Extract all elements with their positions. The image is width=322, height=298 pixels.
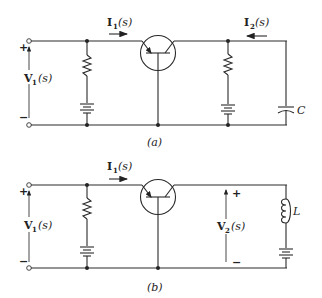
svg-text:(s): (s) xyxy=(38,219,52,232)
svg-text:(s): (s) xyxy=(38,72,52,85)
v1-plus-sign: + xyxy=(19,185,28,198)
svg-text:(s): (s) xyxy=(118,16,132,29)
svg-text:I: I xyxy=(107,16,112,29)
svg-text:I: I xyxy=(244,16,249,29)
transistor-icon xyxy=(141,180,176,269)
v2-label: V 2 (s) xyxy=(216,220,245,235)
v1-minus-sign: − xyxy=(19,111,28,124)
caption-a: (a) xyxy=(147,136,162,149)
v1-plus-sign: + xyxy=(19,41,28,54)
v2-minus-sign: − xyxy=(232,256,241,269)
battery-icon xyxy=(80,247,94,268)
i1-label: I 1 (s) xyxy=(107,160,132,175)
circuit-a: + − V 1 (s) I 1 (s) xyxy=(19,16,306,149)
i2-label: I 2 (s) xyxy=(244,16,269,31)
capacitor-icon xyxy=(278,107,294,125)
v2-plus-sign: + xyxy=(232,187,241,200)
battery-icon xyxy=(80,104,94,125)
capacitor-label: C xyxy=(297,104,306,117)
resistor-icon xyxy=(83,41,91,103)
v1-label: V 1 (s) xyxy=(23,72,52,87)
v1-label: V 1 (s) xyxy=(23,219,52,234)
svg-text:1: 1 xyxy=(32,225,37,234)
svg-text:(s): (s) xyxy=(118,160,132,173)
caption-b: (b) xyxy=(147,281,163,294)
v1-minus-sign: − xyxy=(19,255,28,268)
inductor-icon xyxy=(282,199,291,248)
svg-text:(s): (s) xyxy=(231,220,245,233)
inductor-label: L xyxy=(292,205,300,218)
battery-2-icon xyxy=(221,105,235,125)
circuit-b: + − V 1 (s) I 1 (s) xyxy=(19,160,300,294)
svg-text:2: 2 xyxy=(225,226,230,235)
circuit-diagram: + − V 1 (s) I 1 (s) xyxy=(0,0,322,298)
svg-text:1: 1 xyxy=(32,78,37,87)
svg-text:(s): (s) xyxy=(255,16,269,29)
resistor-icon xyxy=(83,185,91,246)
transistor-icon xyxy=(141,36,176,126)
battery-3-icon xyxy=(279,249,293,268)
resistor-2-icon xyxy=(224,41,232,104)
svg-text:I: I xyxy=(107,160,112,173)
i1-label: I 1 (s) xyxy=(107,16,132,31)
